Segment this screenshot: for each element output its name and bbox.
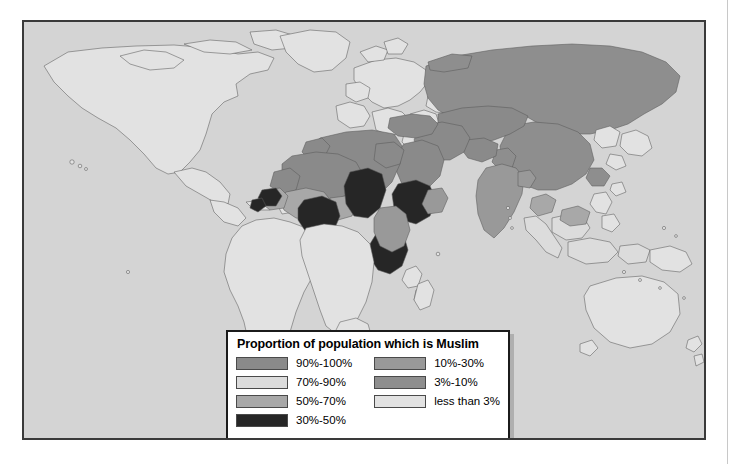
legend-item-less-than-3: less than 3% [374,393,500,409]
legend-swatch-90-100 [236,357,288,370]
legend-label-10-30: 10%-30% [434,357,484,369]
legend-item-90-100: 90%-100% [236,355,368,371]
legend-label-3-10: 3%-10% [434,376,477,388]
legend-column-right: 10%-30% 3%-10% less than 3% [374,355,500,428]
legend-label-30-50: 30%-50% [296,414,346,426]
legend-label-less-than-3: less than 3% [434,395,500,407]
legend-swatch-70-90 [236,376,288,389]
legend-swatch-10-30 [374,357,426,370]
legend-item-30-50: 30%-50% [236,412,368,428]
legend-swatch-3-10 [374,376,426,389]
legend-item-10-30: 10%-30% [374,355,500,371]
legend-swatch-50-70 [236,395,288,408]
legend-label-70-90: 70%-90% [296,376,346,388]
legend-columns: 90%-100% 70%-90% 50%-70% 30%-50% [236,355,500,428]
map-legend: Proportion of population which is Muslim… [226,330,510,440]
legend-swatch-less-than-3 [374,395,426,408]
legend-item-70-90: 70%-90% [236,374,368,390]
legend-title: Proportion of population which is Muslim [237,337,500,351]
world-map-figure: .c { stroke:#5a5a5a; stroke-width:.55; v… [22,20,706,440]
legend-label-50-70: 50%-70% [296,395,346,407]
legend-item-50-70: 50%-70% [236,393,368,409]
legend-item-3-10: 3%-10% [374,374,500,390]
legend-label-90-100: 90%-100% [296,357,352,369]
page-edge-rule [727,0,728,464]
legend-column-left: 90%-100% 70%-90% 50%-70% 30%-50% [236,355,368,428]
legend-swatch-30-50 [236,414,288,427]
page-sheet: .c { stroke:#5a5a5a; stroke-width:.55; v… [0,0,740,464]
